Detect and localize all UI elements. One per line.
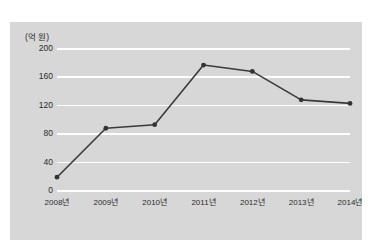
clipped-header-strip: ᄀ ᄂ ᄃ ᄅ ᄆ ᄇ ᄉ ᄋ ᄌ ᄎ <box>0 0 373 12</box>
data-point-marker <box>152 122 157 127</box>
y-axis-tick-label: 0 <box>13 185 53 195</box>
data-point-markers <box>55 63 353 180</box>
line-series-svg <box>57 48 350 190</box>
x-axis-tick-label: 2008년 <box>45 196 70 207</box>
data-point-marker <box>299 97 304 102</box>
y-axis-tick-label: 160 <box>13 71 53 81</box>
data-point-marker <box>348 101 353 106</box>
x-axis-tick-labels: 2008년2009년2010년2011년2012년2013년2014년 <box>57 196 350 210</box>
plot-area <box>57 48 350 190</box>
data-line <box>57 65 350 177</box>
data-point-marker <box>55 175 60 180</box>
x-axis-tick-label: 2010년 <box>142 196 167 207</box>
gridline <box>57 190 350 192</box>
y-axis-unit-label: (억 원) <box>25 30 49 42</box>
x-axis-tick-label: 2011년 <box>191 196 215 207</box>
clipped-header-text: ᄀ ᄂ ᄃ ᄅ ᄆ ᄇ ᄉ ᄋ ᄌ ᄎ <box>6 0 141 7</box>
y-axis-tick-label: 40 <box>13 157 53 167</box>
data-point-marker <box>201 63 206 68</box>
y-axis-tick-label: 120 <box>13 100 53 110</box>
data-point-marker <box>250 69 255 74</box>
x-axis-tick-label: 2012년 <box>240 196 265 207</box>
line-chart-panel: (억 원) 04080120160200 2008년2009년2010년2011… <box>10 22 362 240</box>
x-axis-tick-label: 2014년 <box>338 196 363 207</box>
y-axis-tick-labels: 04080120160200 <box>10 48 53 190</box>
y-axis-tick-label: 200 <box>13 43 53 53</box>
x-axis-tick-label: 2013년 <box>289 196 314 207</box>
x-axis-tick-label: 2009년 <box>93 196 118 207</box>
y-axis-tick-label: 80 <box>13 128 53 138</box>
data-point-marker <box>103 126 108 131</box>
